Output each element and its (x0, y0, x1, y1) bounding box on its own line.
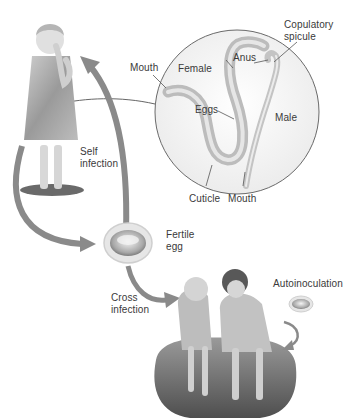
label-cuticle: Cuticle (189, 193, 220, 205)
label-copulatory-spicule: Copulatory spicule (284, 19, 333, 43)
label-fertile-egg: Fertile egg (166, 229, 194, 253)
fertile-egg (104, 223, 152, 263)
cross-infection-arrowhead (164, 292, 180, 308)
label-eggs: Eggs (195, 104, 218, 116)
two-children (154, 269, 296, 418)
label-cross-infection: Cross infection (111, 292, 149, 316)
autoinoculation-egg (289, 296, 313, 312)
grass (20, 184, 84, 196)
label-self-infection: Self infection (80, 146, 118, 170)
label-anus: Anus (233, 52, 256, 64)
label-mouth-female: Mouth (130, 62, 158, 74)
label-mouth-male: Mouth (228, 193, 256, 205)
label-female: Female (178, 63, 212, 75)
autoinoculation-arrowhead (282, 340, 294, 350)
child-standing (20, 24, 84, 196)
label-male: Male (275, 112, 297, 124)
label-autoinoculation: Autoinoculation (273, 278, 343, 290)
child-to-egg-arrowhead (80, 236, 96, 252)
life-cycle-diagram (0, 0, 348, 420)
